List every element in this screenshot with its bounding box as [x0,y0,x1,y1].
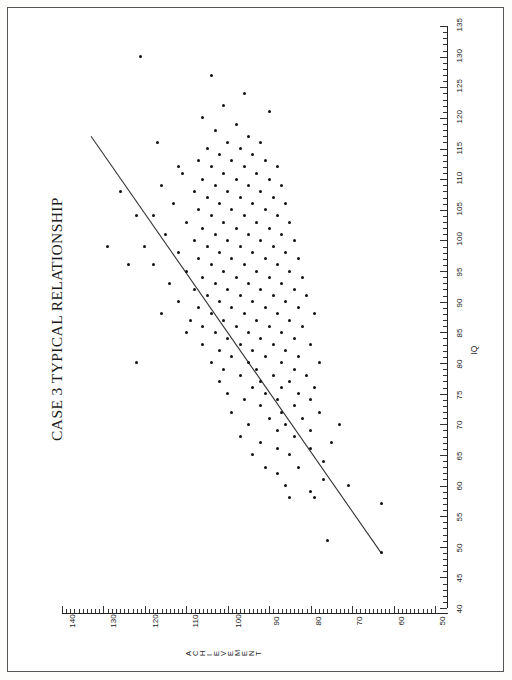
y-axis-minor-tick [195,609,196,613]
x-axis-minor-tick [443,277,447,278]
y-axis-minor-tick [336,609,337,613]
data-point [255,368,258,371]
x-axis-minor-tick [443,142,447,143]
y-axis-tick-label: 130 [109,614,118,627]
x-axis-minor-tick [443,314,447,315]
data-point [247,233,250,236]
data-point [235,178,238,181]
data-point [239,245,242,248]
data-point [264,466,267,469]
x-axis-tick-label: 85 [455,329,464,338]
y-axis-minor-tick [360,609,361,613]
y-axis-minor-tick [240,609,241,613]
y-axis-minor-tick [91,609,92,613]
data-point [272,343,275,346]
x-axis-minor-tick [443,124,447,125]
data-point [206,196,209,199]
x-axis-tick-label: 130 [455,49,464,62]
y-axis-minor-tick [153,609,154,613]
x-axis-minor-tick [443,320,447,321]
data-point [193,190,196,193]
y-axis-minor-tick [302,609,303,613]
x-axis-minor-tick [443,437,447,438]
x-axis-major-tick [440,424,447,425]
y-axis-tick-label: 90 [273,617,282,626]
data-point [280,233,283,236]
x-axis-tick-label: 95 [455,268,464,277]
data-point [272,245,275,248]
y-axis-tick-label: 120 [151,614,160,627]
x-axis-minor-tick [443,326,447,327]
x-axis-major-tick [440,516,447,517]
y-axis-major-tick [311,606,312,613]
x-axis-minor-tick [443,504,447,505]
x-axis-minor-tick [443,541,447,542]
x-axis-tick-label: 60 [455,482,464,491]
data-point [255,270,258,273]
data-point [156,141,159,144]
y-axis-minor-tick [398,609,399,613]
data-point [293,337,296,340]
x-axis-minor-tick [443,69,447,70]
x-axis-title: IQ [469,346,479,355]
x-axis-major-tick [440,302,447,303]
data-point [239,435,242,438]
x-axis-minor-tick [443,308,447,309]
x-axis-major-tick [440,547,447,548]
y-axis-minor-tick [418,609,419,613]
data-point [264,392,267,395]
x-axis-minor-tick [443,247,447,248]
y-axis-minor-tick [79,609,80,613]
y-axis-minor-tick [87,609,88,613]
x-axis-minor-tick [443,584,447,585]
x-axis-major-tick [440,210,447,211]
x-axis-minor-tick [443,75,447,76]
data-point [214,233,217,236]
y-axis-minor-tick [261,609,262,613]
y-axis-minor-tick [253,609,254,613]
data-point [264,306,267,309]
data-point [276,472,279,475]
x-axis-minor-tick [443,173,447,174]
x-axis-minor-tick [443,510,447,511]
y-axis-minor-tick [331,609,332,613]
x-axis-minor-tick [443,406,447,407]
y-axis-minor-tick [286,609,287,613]
x-axis-minor-tick [443,522,447,523]
y-axis-tick-label: 60 [397,617,406,626]
data-point [276,429,279,432]
data-point [318,411,321,414]
y-axis-major-tick [352,606,353,613]
data-point [160,184,163,187]
x-axis-minor-tick [443,265,447,266]
data-point [301,325,304,328]
data-point [347,484,350,487]
x-axis-minor-tick [443,498,447,499]
x-axis-major-tick [440,179,447,180]
y-axis-minor-tick [215,609,216,613]
x-axis-minor-tick [443,234,447,235]
y-axis-minor-tick [410,609,411,613]
x-axis-minor-tick [443,357,447,358]
data-point [272,294,275,297]
data-point [222,368,225,371]
data-point [218,380,221,383]
data-point [247,423,250,426]
data-point [297,392,300,395]
y-axis-minor-tick [83,609,84,613]
y-axis-title-glyph: T [254,649,263,656]
y-axis-minor-tick [203,609,204,613]
y-axis-minor-tick [170,609,171,613]
data-point [235,123,238,126]
x-axis-major-tick [440,577,447,578]
y-axis-minor-tick [414,609,415,613]
regression-line [62,26,435,608]
x-axis-major-tick [440,271,447,272]
y-axis-minor-tick [315,609,316,613]
x-axis-minor-tick [443,412,447,413]
x-axis-tick-label: 115 [455,141,464,154]
scatter-plot-area [62,26,435,608]
y-axis-minor-tick [191,609,192,613]
y-axis-major-tick [394,606,395,613]
data-point [239,147,242,150]
